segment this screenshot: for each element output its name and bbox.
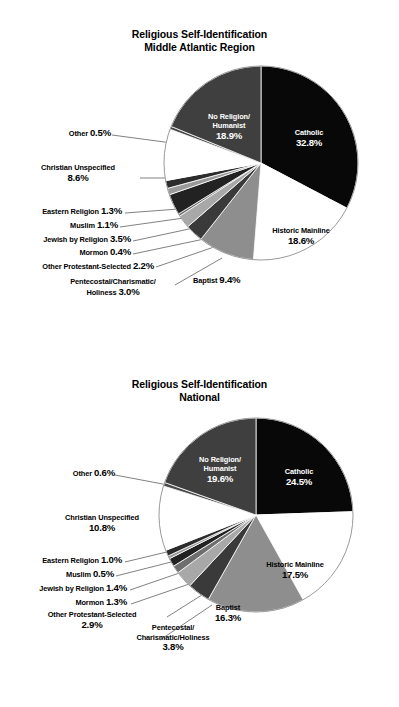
slice-label-catholic: Catholic 32.8%	[271, 128, 347, 147]
slice-label-other-protestant: Other Protestant-Selected 2.2%	[6, 261, 154, 272]
slice-label-no-religion: No Religion/ Humanist 18.9%	[189, 112, 269, 140]
slice-label-eastern-religion: Eastern Religion 1.0%	[8, 555, 122, 566]
slice-label-other: Other 0.6%	[12, 468, 115, 479]
slice-label-baptist: Baptist 16.3%	[197, 603, 259, 622]
chart-title-line-2: Middle Atlantic Region	[0, 41, 399, 54]
chart-title-national: Religious Self-Identification National	[0, 378, 399, 403]
slice-label-historic-mainline: Historic Mainline 18.6%	[249, 226, 353, 245]
slice-label-christian-unspecified: Christian Unspecified 8.6%	[18, 163, 138, 183]
slice-label-jewish: Jewish by Religion 1.4%	[6, 583, 127, 594]
slice-label-baptist: Baptist 9.4%	[193, 275, 240, 286]
slice-label-mormon: Mormon 1.3%	[8, 597, 127, 608]
slice-label-jewish: Jewish by Religion 3.5%	[8, 234, 131, 245]
slice-label-no-religion: No Religion/ Humanist 19.6%	[180, 455, 260, 483]
slice-label-pentecostal: Pentecostal/ Charismatic/Holiness 3.8%	[113, 623, 233, 652]
pie-slices-national	[156, 415, 356, 615]
pie-national	[156, 415, 356, 615]
slice-label-mormon: Mormon 0.4%	[8, 247, 131, 258]
slice-label-christian-unspecified: Christian Unspecified 10.8%	[42, 513, 162, 533]
pie-chart-national: Religious Self-Identification National N…	[0, 355, 399, 707]
chart-title-middle-atlantic: Religious Self-Identification Middle Atl…	[0, 28, 399, 53]
slice-label-other: Other 0.5%	[12, 128, 111, 139]
slice-label-eastern-religion: Eastern Religion 1.3%	[8, 206, 122, 217]
slice-label-historic-mainline: Historic Mainline 17.5%	[243, 560, 347, 579]
slice-label-muslim: Muslim 1.1%	[8, 220, 118, 231]
pie-chart-middle-atlantic: Religious Self-Identification Middle Atl…	[0, 0, 399, 355]
chart-title-line-1: Religious Self-Identification	[132, 28, 267, 40]
chart-title-line-2: National	[0, 391, 399, 404]
slice-label-catholic: Catholic 24.5%	[261, 467, 337, 486]
slice-label-pentecostal: Pentecostal/Charismatic/ Holiness 3.0%	[52, 277, 174, 297]
chart-title-line-1: Religious Self-Identification	[132, 378, 267, 390]
slice-label-muslim: Muslim 0.5%	[8, 569, 114, 580]
